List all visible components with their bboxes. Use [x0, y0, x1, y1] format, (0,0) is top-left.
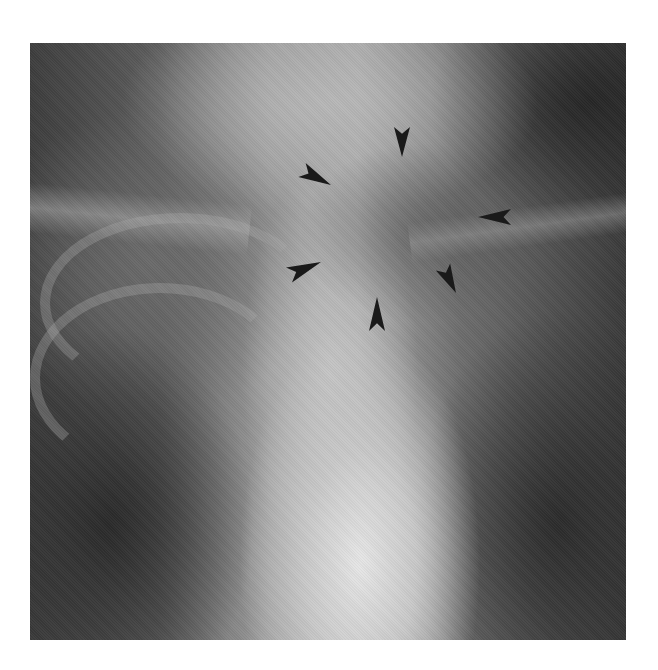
arrowhead-icon-lower-right	[436, 263, 456, 293]
arrowhead-icon-upper-left	[298, 163, 331, 185]
arrowhead-icon-bottom	[369, 297, 385, 331]
arrowhead-icon-right	[478, 209, 511, 225]
arrowhead-annotations	[30, 43, 626, 640]
arrowhead-icon-top	[394, 127, 410, 157]
radiograph-figure	[30, 43, 626, 640]
arrowhead-icon-left	[286, 262, 321, 282]
